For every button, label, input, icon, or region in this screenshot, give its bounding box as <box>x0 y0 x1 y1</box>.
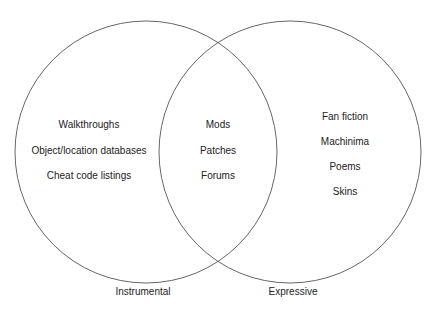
right-item-machinima: Machinima <box>321 136 369 148</box>
left-item-object-location-databases: Object/location databases <box>31 145 146 157</box>
right-item-poems: Poems <box>329 161 360 173</box>
expressive-label: Expressive <box>269 286 318 298</box>
right-item-skins: Skins <box>333 186 357 198</box>
instrumental-label: Instrumental <box>115 286 170 298</box>
left-item-cheat-code-listings: Cheat code listings <box>47 170 132 182</box>
right-item-fan-fiction: Fan fiction <box>322 111 368 123</box>
left-item-walkthroughs: Walkthroughs <box>59 119 120 131</box>
middle-item-patches: Patches <box>200 145 236 157</box>
middle-item-forums: Forums <box>201 170 235 182</box>
middle-item-mods: Mods <box>206 119 230 131</box>
expressive-circle <box>159 21 421 283</box>
